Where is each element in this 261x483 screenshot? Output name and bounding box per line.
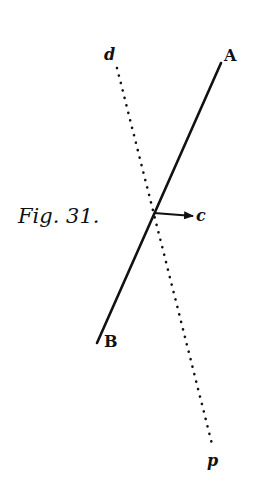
arrow-to-c (154, 213, 193, 216)
line-ab (97, 63, 221, 343)
label-b: B (104, 332, 118, 351)
label-a: A (223, 46, 237, 65)
label-p: p (207, 451, 218, 470)
dotted-line-dp (117, 68, 213, 448)
figure-31-diagram: A B c d p Fig. 31. (0, 0, 261, 483)
label-c: c (196, 206, 206, 225)
label-d: d (104, 45, 115, 64)
figure-caption: Fig. 31. (17, 204, 99, 228)
